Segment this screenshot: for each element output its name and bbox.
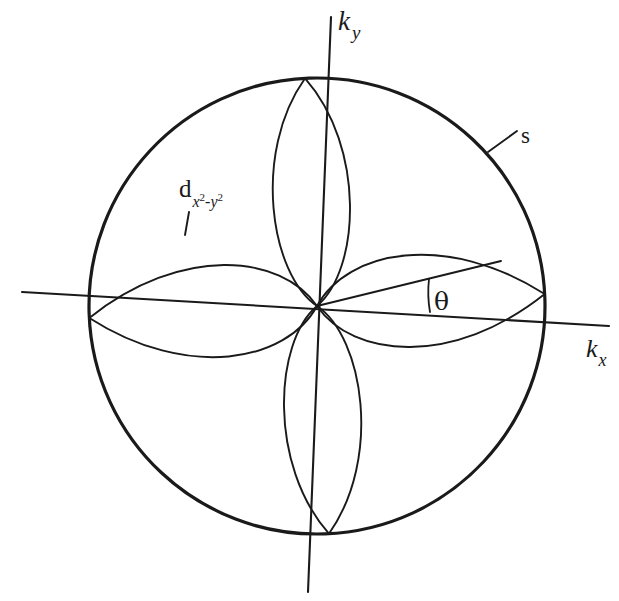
d-wave-label: dx2-y2 bbox=[179, 176, 222, 201]
d-lobe-left bbox=[87, 260, 319, 364]
d-wave-label-subscript: x2-y2 bbox=[193, 193, 224, 210]
ky-axis-label-sub: y bbox=[352, 22, 360, 43]
gap-symmetry-diagram bbox=[0, 0, 619, 601]
kx-axis-label-base: k bbox=[586, 334, 598, 363]
d-lobe-bottom bbox=[279, 304, 368, 536]
d-sub-y: y bbox=[210, 193, 217, 210]
kx-axis-label: kx bbox=[586, 336, 606, 362]
d-lobe-right bbox=[315, 248, 547, 352]
d-sub-x: x bbox=[193, 193, 200, 210]
kx-axis-line bbox=[22, 292, 609, 326]
figure-canvas: ky kx s dx2-y2 θ bbox=[0, 0, 619, 601]
theta-arc bbox=[428, 279, 430, 312]
ky-axis-label-base: k bbox=[338, 6, 350, 36]
d-wave-label-base: d bbox=[179, 175, 192, 202]
d-lobe-top bbox=[267, 76, 356, 308]
kx-axis-label-sub: x bbox=[599, 350, 607, 370]
d-leader-line bbox=[185, 212, 189, 235]
theta-label: θ bbox=[434, 289, 449, 314]
s-wave-label: s bbox=[521, 124, 530, 147]
theta-radial-ray bbox=[317, 261, 501, 306]
d-sub-y-exponent: 2 bbox=[218, 191, 224, 203]
ky-axis-label: ky bbox=[338, 8, 358, 35]
s-leader-line bbox=[488, 131, 517, 152]
